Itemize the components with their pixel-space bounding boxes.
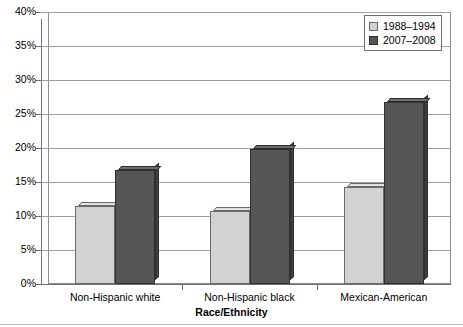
x-axis-tick-label: Non-Hispanic black: [182, 291, 316, 304]
y-axis-tick: [36, 46, 41, 47]
light-gray-swatch-icon: [369, 22, 378, 31]
y-axis-tick-label: 15%: [0, 176, 36, 187]
gridline: [49, 216, 450, 217]
legend-label: 2007–2008: [383, 34, 436, 46]
y-axis-tick: [36, 148, 41, 149]
y-axis-tick-label: 30%: [0, 74, 36, 85]
y-axis-tick: [36, 114, 41, 115]
y-axis-tick: [36, 12, 41, 13]
gridline: [49, 182, 450, 183]
y-axis-tick: [36, 216, 41, 217]
chart-legend: 1988–1994 2007–2008: [364, 15, 442, 51]
x-axis-tick-label: Non-Hispanic white: [48, 291, 182, 304]
x-axis-title: Race/Ethnicity: [0, 306, 463, 319]
y-axis-tick-label: 40%: [0, 6, 36, 17]
x-axis-tick-label: Mexican-American: [317, 291, 451, 304]
gridline: [49, 12, 450, 13]
legend-item-1988-1994: 1988–1994: [369, 19, 436, 33]
y-axis-tick-label: 0%: [0, 278, 36, 289]
y-axis-tick-label: 20%: [0, 142, 36, 153]
y-axis-line: [41, 19, 42, 284]
gridline: [49, 80, 450, 81]
x-axis-tick: [182, 284, 183, 290]
y-axis-tick-label: 35%: [0, 40, 36, 51]
y-axis-tick: [36, 250, 41, 251]
bar-chart: 0%5%10%15%20%25%30%35%40% Non-Hispanic w…: [0, 0, 463, 327]
dark-gray-swatch-icon: [369, 36, 378, 45]
legend-item-2007-2008: 2007–2008: [369, 33, 436, 47]
gridline: [49, 114, 450, 115]
plot-area: [48, 12, 451, 284]
y-axis-tick-label: 25%: [0, 108, 36, 119]
y-axis-tick-label: 10%: [0, 210, 36, 221]
y-axis-tick-label: 5%: [0, 244, 36, 255]
gridline: [49, 148, 450, 149]
gridline: [49, 250, 450, 251]
page-rule-divider: [0, 324, 463, 325]
x-axis-line: [41, 284, 451, 285]
gridlines: [49, 13, 450, 283]
y-axis-tick: [36, 182, 41, 183]
x-axis-tick: [317, 284, 318, 290]
legend-label: 1988–1994: [383, 20, 436, 32]
y-axis-tick: [36, 80, 41, 81]
